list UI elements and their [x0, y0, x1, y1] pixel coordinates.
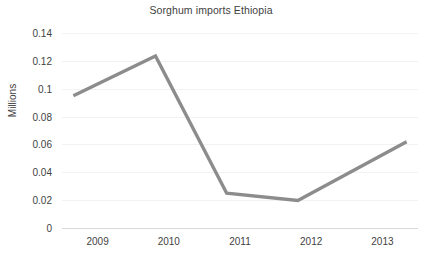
- y-axis-tick-label: 0.14: [0, 28, 52, 39]
- y-axis-tick-label: 0.02: [0, 195, 52, 206]
- chart-title: Sorghum imports Ethiopia: [0, 4, 422, 16]
- x-axis-tick-label: 2012: [281, 236, 341, 247]
- series-plot: [62, 33, 418, 228]
- series-line-sorghum-imports: [73, 56, 406, 200]
- gridline: [62, 228, 418, 229]
- y-axis-tick-label: 0.1: [0, 83, 52, 94]
- y-axis-tick-label: 0.12: [0, 55, 52, 66]
- x-axis-tick-label: 2011: [210, 236, 270, 247]
- plot-area: 00.020.040.060.080.10.120.14 20092010201…: [62, 33, 418, 228]
- y-axis-tick-label: 0.06: [0, 139, 52, 150]
- y-axis-title: Millions: [7, 65, 18, 137]
- y-axis-tick-label: 0.08: [0, 111, 52, 122]
- x-axis-tick-label: 2010: [139, 236, 199, 247]
- line-chart: Sorghum imports Ethiopia Millions 00.020…: [0, 0, 422, 255]
- x-axis-tick-label: 2009: [68, 236, 128, 247]
- y-axis-tick-label: 0: [0, 223, 52, 234]
- y-axis-tick-label: 0.04: [0, 167, 52, 178]
- x-axis-tick-label: 2013: [352, 236, 412, 247]
